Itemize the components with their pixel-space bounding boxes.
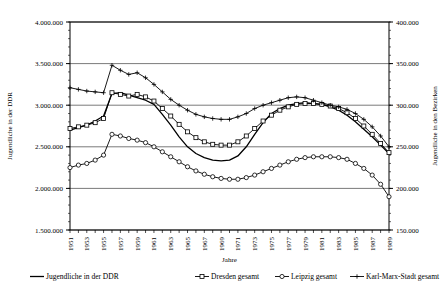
data-point-marker xyxy=(76,125,80,129)
series-4 xyxy=(68,63,391,149)
data-point-marker xyxy=(244,175,248,179)
data-point-marker xyxy=(379,182,383,186)
data-point-marker xyxy=(387,195,391,199)
y-axis-left: 1.500.0002.000.0002.500.0003.000.0003.50… xyxy=(35,19,70,235)
data-point-marker xyxy=(177,122,181,126)
data-point-marker xyxy=(144,95,148,99)
legend-marker-3 xyxy=(280,274,284,278)
series-line xyxy=(70,65,389,147)
data-point-marker xyxy=(337,156,341,160)
legend-marker-2 xyxy=(200,275,204,279)
y-tick-label-left: 2.500.000 xyxy=(35,143,64,151)
data-point-marker xyxy=(93,121,97,125)
x-tick-label: 1961 xyxy=(150,237,158,252)
data-point-marker xyxy=(370,173,374,177)
data-point-marker xyxy=(370,132,374,136)
data-point-marker xyxy=(303,156,307,160)
data-point-marker xyxy=(211,142,215,146)
data-point-marker xyxy=(303,102,307,106)
y-tick-label-right: 250.000 xyxy=(396,143,419,151)
data-point-marker xyxy=(127,136,131,140)
x-tick-label: 1977 xyxy=(285,237,293,252)
y-tick-label-right: 300.000 xyxy=(396,102,419,110)
series-1 xyxy=(70,93,389,161)
y-tick-label-left: 3.000.000 xyxy=(35,102,64,110)
x-tick-label: 1987 xyxy=(369,237,377,252)
series-line xyxy=(70,93,389,161)
data-point-marker xyxy=(278,108,282,112)
x-tick-label: 1951 xyxy=(67,237,75,252)
data-point-marker xyxy=(295,102,299,106)
legend-label-1: Jugendliche in der DDR xyxy=(46,272,119,281)
data-point-marker xyxy=(379,141,383,145)
x-tick-label: 1981 xyxy=(318,237,326,252)
data-point-marker xyxy=(160,150,164,154)
data-point-marker xyxy=(194,136,198,140)
series-2 xyxy=(68,91,391,155)
y-axis-title-left: Jugendliche in der DDR xyxy=(6,92,14,160)
data-point-marker xyxy=(219,176,223,180)
data-point-marker xyxy=(127,94,131,98)
legend-label-2: Dresden gesamt xyxy=(211,272,260,281)
chart-container: 1.500.0002.000.0002.500.0003.000.0003.50… xyxy=(0,0,446,293)
data-point-marker xyxy=(362,124,366,128)
x-tick-label: 1953 xyxy=(83,237,91,252)
x-axis-title: Jahre xyxy=(222,256,237,264)
data-point-marker xyxy=(227,177,231,181)
data-point-marker xyxy=(143,141,147,145)
x-tick-label: 1967 xyxy=(201,237,209,252)
gridlines xyxy=(70,22,389,230)
data-point-marker xyxy=(311,155,315,159)
data-point-marker xyxy=(269,166,273,170)
data-point-marker xyxy=(328,155,332,159)
data-point-marker xyxy=(118,92,122,96)
data-point-marker xyxy=(219,143,223,147)
x-tick-label: 1963 xyxy=(167,237,175,252)
data-point-marker xyxy=(236,140,240,144)
y-tick-label-right: 150.000 xyxy=(396,227,419,235)
legend: Jugendliche in der DDRDresden gesamtLeip… xyxy=(30,272,440,281)
y-axis-title-right: Jugendliche in den Bezirken xyxy=(431,86,439,166)
x-tick-label: 1971 xyxy=(234,237,242,252)
data-point-marker xyxy=(286,105,290,109)
x-tick-label: 1969 xyxy=(218,237,226,252)
data-point-marker xyxy=(110,91,114,95)
data-point-marker xyxy=(169,114,173,118)
x-tick-label: 1973 xyxy=(251,237,259,252)
x-tick-label: 1955 xyxy=(100,237,108,252)
data-point-marker xyxy=(362,166,366,170)
x-tick-label: 1979 xyxy=(302,237,310,252)
data-point-marker xyxy=(236,177,240,181)
x-tick-label: 1957 xyxy=(117,237,125,252)
data-point-marker xyxy=(194,169,198,173)
x-tick-label: 1965 xyxy=(184,237,192,252)
data-point-marker xyxy=(152,99,156,103)
data-point-marker xyxy=(101,153,105,157)
data-point-marker xyxy=(211,175,215,179)
x-tick-label: 1975 xyxy=(268,237,276,252)
x-tick-label: 1989 xyxy=(386,237,394,252)
data-point-marker xyxy=(353,117,357,121)
data-point-marker xyxy=(186,130,190,134)
data-point-marker xyxy=(261,170,265,174)
data-point-marker xyxy=(202,172,206,176)
data-point-marker xyxy=(110,132,114,136)
data-point-marker xyxy=(185,165,189,169)
data-point-marker xyxy=(85,123,89,127)
data-point-marker xyxy=(295,157,299,161)
data-point-marker xyxy=(152,145,156,149)
data-point-marker xyxy=(286,160,290,164)
data-point-marker xyxy=(102,117,106,121)
data-point-marker xyxy=(228,143,232,147)
data-point-marker xyxy=(135,92,139,96)
data-point-marker xyxy=(135,138,139,142)
data-point-marker xyxy=(253,126,257,130)
y-tick-label-right: 200.000 xyxy=(396,185,419,193)
y-tick-label-right: 400.000 xyxy=(396,19,419,27)
data-point-marker xyxy=(160,107,164,111)
data-point-marker xyxy=(93,158,97,162)
data-point-marker xyxy=(253,173,257,177)
data-point-marker xyxy=(387,151,391,155)
legend-label-4: Karl-Marx-Stadt gesamt xyxy=(366,272,440,281)
data-point-marker xyxy=(320,155,324,159)
